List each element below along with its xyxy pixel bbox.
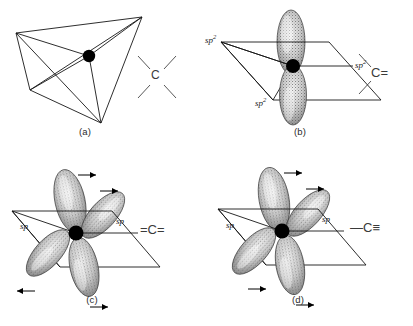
orbital-label-b-bottom: sp2	[255, 97, 266, 108]
orbital-label-sup: 2	[263, 96, 266, 103]
tetrahedron-center-bonds	[16, 17, 142, 123]
panel-c: sp sp =C= (c)	[0, 155, 210, 326]
bond-notation-a: C	[130, 48, 192, 106]
tetrahedron-wireframe	[16, 17, 142, 123]
bond-notation-c: =C=	[140, 223, 165, 236]
p-orbital-lower-right-c	[64, 235, 104, 300]
orbital-label-text: sp	[226, 220, 234, 230]
bond-notation-lines-a	[130, 48, 192, 106]
orbital-label-sup: 2	[213, 33, 216, 40]
orbital-label-text: sp	[116, 216, 124, 226]
orbital-label-b-left: sp2	[205, 34, 216, 45]
bond-notation-atom-a: C	[151, 69, 160, 81]
carbon-nucleus-b	[286, 59, 300, 73]
hybrid-orbital-figure: C (a)	[0, 0, 413, 326]
panel-caption-a: (a)	[65, 126, 105, 137]
panel-caption-c: (c)	[72, 294, 112, 305]
panel-caption-d: (d)	[278, 294, 318, 305]
orbital-label-text: sp	[205, 35, 213, 45]
carbon-nucleus-c	[69, 226, 84, 241]
bond-notation-atom-b: C=	[371, 66, 388, 79]
panel-a: C (a)	[0, 0, 205, 150]
orbital-label-text: sp	[322, 214, 330, 224]
orbital-label-text: sp	[255, 98, 263, 108]
p-orbital-lower-left-c	[19, 223, 77, 283]
panel-b: sp2 sp2 sp2 C= (b)	[205, 0, 413, 150]
orbital-label-d-left: sp	[226, 221, 234, 230]
carbon-nucleus-a	[83, 50, 95, 62]
bond-notation-d: —C≡	[350, 221, 380, 234]
p-orbital-lower-b	[280, 65, 307, 125]
orbital-label-text: sp	[20, 221, 28, 231]
panel-d: sp sp —C≡ (d)	[210, 155, 413, 326]
bond-notation-suffix-d: ≡	[372, 220, 380, 235]
bond-notation-b: C=	[357, 48, 413, 100]
panel-caption-b: (b)	[280, 126, 320, 137]
carbon-nucleus-d	[275, 224, 290, 239]
bond-notation-atom-d: C	[363, 220, 372, 235]
orbital-label-d-right: sp	[322, 215, 330, 224]
orbital-label-c-right: sp	[116, 217, 124, 226]
p-orbital-lower-right-d	[271, 233, 309, 297]
orbital-label-c-left: sp	[20, 222, 28, 231]
bond-notation-prefix-d: —	[350, 220, 363, 235]
